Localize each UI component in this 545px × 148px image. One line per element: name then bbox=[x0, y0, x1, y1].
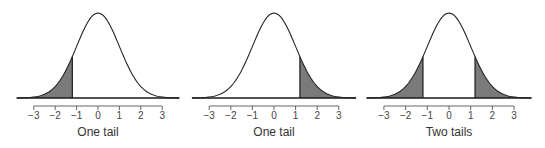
x-tick-label: 2 bbox=[314, 110, 320, 121]
x-tick-label: 0 bbox=[271, 110, 277, 121]
left-tail-shaded-area bbox=[17, 57, 73, 98]
normal-density-curve bbox=[367, 13, 532, 98]
x-tick-label: 1 bbox=[468, 110, 474, 121]
panel-one-tail-right: −3−2−10123 One tail bbox=[192, 13, 356, 139]
normal-density-curve bbox=[192, 13, 356, 98]
panel-caption: Two tails bbox=[426, 125, 473, 139]
x-tick-label: −2 bbox=[400, 110, 412, 121]
x-tick-label: 2 bbox=[138, 110, 144, 121]
x-tick-label: 3 bbox=[336, 110, 342, 121]
x-tick-label: −3 bbox=[28, 110, 40, 121]
x-tick-label: −1 bbox=[71, 110, 83, 121]
x-tick-label: −2 bbox=[225, 110, 237, 121]
x-axis-ticks: −3−2−10123 bbox=[28, 106, 165, 121]
x-tick-label: −1 bbox=[422, 110, 434, 121]
x-axis-ticks: −3−2−10123 bbox=[203, 106, 342, 121]
x-tick-label: 0 bbox=[446, 110, 452, 121]
panel-caption: One tail bbox=[253, 125, 294, 139]
x-tick-label: −2 bbox=[49, 110, 61, 121]
x-axis-ticks: −3−2−10123 bbox=[378, 106, 517, 121]
normal-density-curve bbox=[17, 13, 180, 98]
x-tick-label: −3 bbox=[203, 110, 215, 121]
x-tick-label: 0 bbox=[95, 110, 101, 121]
x-tick-label: 1 bbox=[293, 110, 299, 121]
panel-two-tails: −3−2−10123 Two tails bbox=[367, 13, 532, 139]
x-tick-label: 3 bbox=[159, 110, 165, 121]
x-tick-label: −3 bbox=[378, 110, 390, 121]
x-tick-label: −1 bbox=[247, 110, 259, 121]
x-tick-label: 3 bbox=[511, 110, 517, 121]
two-tail-shaded-area bbox=[367, 57, 532, 98]
x-tick-label: 1 bbox=[117, 110, 123, 121]
normal-tail-areas-figure: −3−2−10123 One tail −3−2−10123 One tail … bbox=[0, 0, 545, 148]
panel-one-tail-left: −3−2−10123 One tail bbox=[17, 13, 180, 139]
right-tail-shaded-area bbox=[300, 57, 356, 98]
panel-caption: One tail bbox=[77, 125, 118, 139]
x-tick-label: 2 bbox=[490, 110, 496, 121]
